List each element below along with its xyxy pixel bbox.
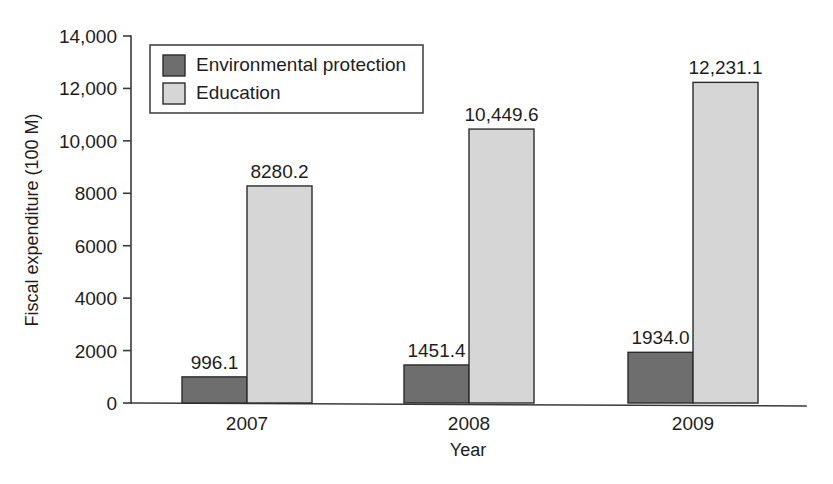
bar-value-label: 1934.0: [631, 327, 689, 348]
chart-figure: Fiscal expenditure (100 M) 0200040006000…: [0, 0, 833, 484]
y-tick-label: 14,000: [59, 26, 117, 47]
bar-2007-environmental-protection: [182, 377, 247, 403]
bar-2008-education: [469, 129, 534, 403]
bar-2009-education: [693, 82, 758, 403]
y-tick-label: 0: [106, 393, 117, 414]
y-tick-label: 10,000: [59, 131, 117, 152]
bar-value-label: 10,449.6: [465, 104, 539, 125]
legend-label-environmental-protection: Environmental protection: [196, 54, 406, 75]
bar-2009-environmental-protection: [628, 352, 693, 403]
bar-value-label: 996.1: [191, 352, 239, 373]
x-tick-label-2007: 2007: [226, 413, 268, 434]
x-tick-label-2009: 2009: [672, 413, 714, 434]
bar-value-label: 1451.4: [407, 340, 466, 361]
y-tick-label: 12,000: [59, 78, 117, 99]
bar-chart: Fiscal expenditure (100 M) 0200040006000…: [0, 0, 833, 484]
chart-legend: Environmental protection Education: [150, 45, 423, 113]
x-tick-label-2008: 2008: [448, 413, 490, 434]
y-tick-label: 4000: [75, 288, 117, 309]
bar-value-label: 12,231.1: [689, 57, 763, 78]
bar-2007-education: [247, 186, 312, 403]
legend-swatch-environmental-protection: [163, 55, 185, 76]
y-tick-label: 8000: [75, 183, 117, 204]
y-tick-label: 6000: [75, 236, 117, 257]
legend-swatch-education: [163, 83, 185, 104]
y-tick-label: 2000: [75, 341, 117, 362]
bar-2008-environmental-protection: [404, 365, 469, 403]
y-axis-title: Fiscal expenditure (100 M): [22, 113, 42, 326]
bar-value-label: 8280.2: [250, 161, 308, 182]
legend-label-education: Education: [196, 82, 281, 103]
x-axis-title: Year: [450, 440, 486, 460]
